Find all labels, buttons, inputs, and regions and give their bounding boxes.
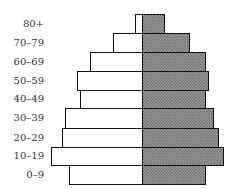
age-group-label: 80+ <box>0 18 44 30</box>
age-group-label: 30–39 <box>0 112 44 124</box>
bar-right-10-19 <box>142 147 224 166</box>
bar-right-60-69 <box>142 52 206 72</box>
age-group-label: 20–29 <box>0 132 44 144</box>
age-group-label: 70–79 <box>0 37 44 49</box>
bar-left-50-59 <box>77 71 143 91</box>
bar-right-20-29 <box>142 128 219 148</box>
bar-left-60-69 <box>90 52 143 72</box>
age-group-label: 10–19 <box>0 150 44 162</box>
bar-left-40-49 <box>80 90 143 109</box>
bar-left-70-79 <box>113 33 143 53</box>
age-group-label: 40–49 <box>0 93 44 105</box>
bar-left-20-29 <box>62 128 143 148</box>
bar-right-50-59 <box>142 71 209 91</box>
bar-left-30-39 <box>65 108 143 129</box>
bar-right-30-39 <box>142 108 214 129</box>
age-group-label: 60–69 <box>0 56 44 68</box>
bar-right-0-9 <box>142 165 206 185</box>
age-group-label: 0–9 <box>0 169 44 181</box>
bar-left-0-9 <box>69 165 143 185</box>
bar-left-10-19 <box>51 147 143 166</box>
age-group-label: 50–59 <box>0 75 44 87</box>
bar-right-40-49 <box>142 90 206 109</box>
bar-right-80+ <box>142 14 165 34</box>
bar-right-70-79 <box>142 33 190 53</box>
